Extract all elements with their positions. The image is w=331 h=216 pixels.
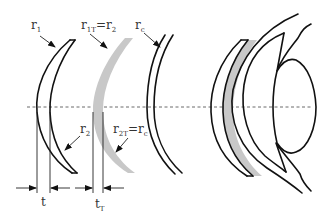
label-tt: tT — [95, 197, 105, 213]
contact-lens — [37, 40, 77, 173]
thickness-t: t — [16, 112, 70, 209]
label-r2t: r2T=rc — [113, 122, 148, 138]
lens-radii-diagram: t tT r1 r1T=r2 rc r2 r2T=rc — [0, 0, 331, 216]
label-r2: r2 — [80, 122, 90, 138]
label-r1t: r1T=r2 — [81, 18, 116, 34]
label-r1t-group: r1T=r2 — [81, 18, 116, 48]
label-r2t-group: r2T=rc — [113, 122, 148, 152]
label-r1-group: r1 — [31, 18, 55, 47]
label-r1: r1 — [31, 18, 41, 34]
tear-lens — [93, 38, 135, 173]
label-rc: rc — [135, 18, 145, 34]
cornea-curves — [147, 35, 182, 174]
label-r2-group: r2 — [65, 122, 90, 150]
label-t: t — [41, 195, 46, 209]
eye-cross-section — [211, 14, 316, 193]
label-rc-group: rc — [135, 18, 160, 47]
